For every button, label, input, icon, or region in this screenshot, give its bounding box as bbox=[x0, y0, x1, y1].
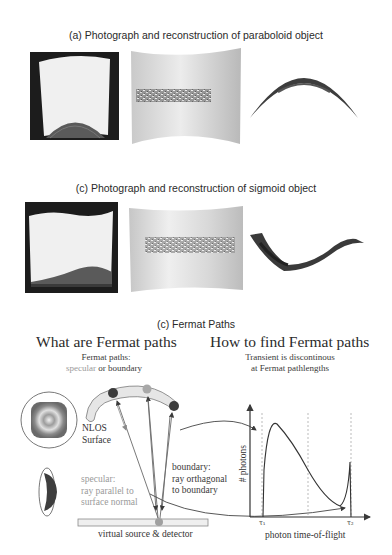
panel-a-caption: (a) Photograph and reconstruction of par… bbox=[0, 29, 392, 41]
right-subheading-line1: Transient is discontinous bbox=[230, 352, 350, 363]
boundary-label: boundary: ray orthagonal to boundary bbox=[172, 462, 227, 497]
nlos-object-front-icon bbox=[21, 392, 77, 448]
paraboloid-reconstruction-surface bbox=[128, 48, 243, 144]
sigmoid-photograph bbox=[25, 202, 118, 293]
nlos-surface-label: NLOS Surface bbox=[82, 423, 111, 446]
left-heading: What are Fermat paths bbox=[36, 333, 177, 351]
sigmoid-reconstruction-profile bbox=[248, 225, 368, 275]
x-axis-label: photon time-of-flight bbox=[265, 530, 345, 542]
panel-c-sigmoid-caption: (c) Photograph and reconstruction of sig… bbox=[0, 182, 392, 194]
transient-plot bbox=[250, 405, 370, 517]
tau2-tick-label: τ₂ bbox=[347, 519, 354, 527]
specular-label: specular: ray parallel to surface normal bbox=[81, 474, 138, 509]
tau1-tick-label: τ₁ bbox=[259, 519, 266, 527]
paraboloid-photograph bbox=[30, 52, 119, 140]
detector-label: virtual source & detector bbox=[98, 529, 193, 541]
right-heading: How to find Fermat paths bbox=[210, 333, 369, 351]
nlos-object-side-icon bbox=[39, 468, 57, 516]
sigmoid-reconstruction-surface bbox=[127, 204, 245, 294]
left-subheading-line1: Fermat paths: bbox=[62, 352, 150, 363]
y-axis-label: # photons bbox=[238, 434, 250, 494]
panel-c-fermat-caption: (c) Fermat Paths bbox=[0, 318, 392, 330]
paraboloid-reconstruction-profile bbox=[248, 70, 360, 122]
